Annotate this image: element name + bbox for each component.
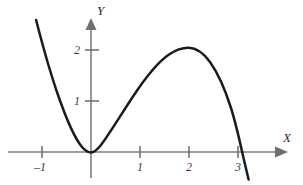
- x-tick-label-1: 1: [137, 161, 143, 173]
- y-tick-label-2: 2: [74, 44, 80, 56]
- y-axis-arrowhead: [86, 18, 97, 30]
- plot-canvas: [0, 0, 303, 185]
- y-axis-label: Y: [97, 4, 104, 17]
- x-axis-arrowhead: [275, 147, 288, 158]
- cubic-curve: [36, 20, 249, 180]
- function-graph-figure: X Y –1 1 2 3 1 2: [0, 0, 303, 185]
- x-tick-label-3: 3: [235, 161, 241, 173]
- x-axis-label: X: [283, 131, 291, 144]
- x-tick-label-2: 2: [186, 161, 192, 173]
- x-tick-label-minus1: –1: [34, 161, 46, 173]
- y-tick-label-1: 1: [74, 95, 80, 107]
